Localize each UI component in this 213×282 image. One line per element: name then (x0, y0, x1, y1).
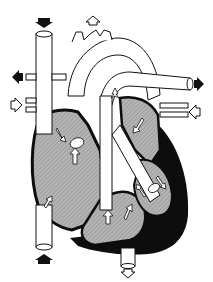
arrow-left-in (11, 98, 22, 112)
heart-diagram (0, 0, 213, 282)
arrow-ivc-in (35, 254, 53, 264)
arrow-aorta-up (86, 16, 100, 25)
descending-aorta (121, 248, 135, 269)
arrow-left-out (12, 70, 23, 84)
inferior-vena-cava (36, 205, 52, 250)
superior-vena-cava (36, 31, 52, 134)
arrow-svc-in (35, 18, 53, 28)
arrow-right-in (189, 105, 200, 119)
arrow-aorta-down (121, 269, 135, 278)
arrow-right-out (194, 77, 204, 91)
heart-illustration (0, 0, 213, 282)
